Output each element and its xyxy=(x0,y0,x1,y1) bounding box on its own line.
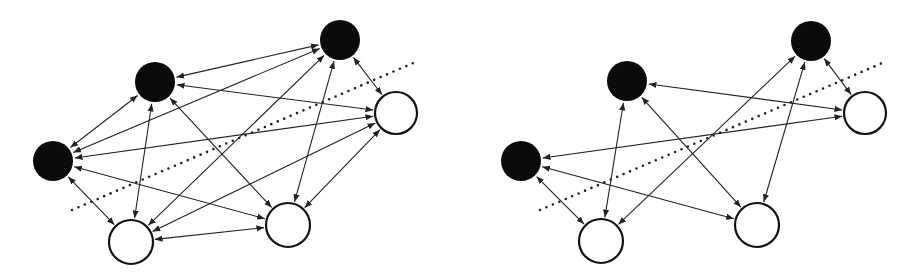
edge-A-E xyxy=(294,61,334,202)
dotted-divider-line xyxy=(72,61,418,210)
edge-A-B xyxy=(176,45,318,77)
edge-B-D xyxy=(177,85,373,110)
edge-C-F xyxy=(68,177,114,225)
white-node-E xyxy=(735,203,779,247)
left-graph xyxy=(33,20,418,264)
edge-E-F xyxy=(155,228,264,240)
edge-C-F xyxy=(537,177,584,224)
white-node-D xyxy=(375,92,417,134)
white-node-F xyxy=(579,219,623,263)
black-node-B xyxy=(607,61,647,101)
white-node-D xyxy=(844,92,886,134)
black-node-C xyxy=(501,141,541,181)
edge-D-F xyxy=(153,123,376,231)
white-node-E xyxy=(266,203,310,247)
edge-B-D xyxy=(649,84,842,110)
edge-B-E xyxy=(170,98,272,207)
edge-B-F xyxy=(605,103,624,218)
dotted-divider-line xyxy=(540,61,887,210)
edge-A-E xyxy=(764,62,805,202)
edge-A-C xyxy=(73,49,319,153)
white-node-F xyxy=(109,220,153,264)
edge-C-E xyxy=(74,167,265,219)
edge-B-F xyxy=(135,104,152,219)
black-node-C xyxy=(33,141,73,181)
right-graph xyxy=(501,21,887,263)
edge-C-D xyxy=(543,116,842,158)
black-node-A xyxy=(320,20,360,60)
edge-A-D xyxy=(353,57,382,94)
edge-B-E xyxy=(642,97,741,207)
black-node-A xyxy=(791,21,831,61)
black-node-B xyxy=(135,62,175,102)
edge-D-E xyxy=(305,130,380,208)
edge-A-D xyxy=(824,59,851,95)
network-diagram xyxy=(0,0,921,275)
